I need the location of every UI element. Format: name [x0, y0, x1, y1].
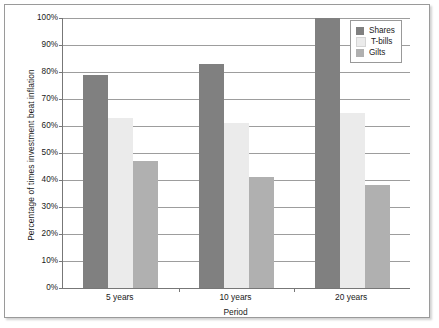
y-axis-tick-label: 100%: [30, 14, 58, 22]
y-axis-tick-labels: 100%90%80%70%60%50%40%30%20%10%0%: [26, 0, 58, 328]
y-axis-tick-label: 20%: [30, 230, 58, 238]
x-axis-tick-label: 5 years: [62, 292, 178, 302]
legend-label: Shares: [369, 26, 395, 35]
y-axis-tick-label: 30%: [30, 203, 58, 211]
bar-group: [63, 18, 179, 288]
legend-label: T-bills: [371, 37, 392, 46]
y-axis-tick-label: 70%: [30, 95, 58, 103]
bar-gilts[interactable]: [365, 185, 390, 288]
chart-legend: SharesT-billsGilts: [350, 20, 402, 63]
legend-item[interactable]: Gilts: [356, 47, 395, 58]
bar-t-bills[interactable]: [340, 113, 365, 289]
y-axis-tick-mark: [59, 288, 63, 289]
y-axis-tick-label: 10%: [30, 257, 58, 265]
y-axis-tick-label: 0%: [30, 284, 58, 292]
bar-group: [179, 18, 295, 288]
legend-item[interactable]: Shares: [356, 25, 395, 36]
x-axis-title: Period: [62, 307, 409, 317]
bar-gilts[interactable]: [249, 177, 274, 288]
y-axis-tick-label: 80%: [30, 68, 58, 76]
bar-t-bills[interactable]: [108, 118, 133, 288]
x-axis-tick-label: 10 years: [178, 292, 294, 302]
legend-item[interactable]: T-bills: [356, 36, 395, 47]
legend-swatch-icon: [356, 27, 364, 35]
y-axis-tick-label: 90%: [30, 41, 58, 49]
bar-shares[interactable]: [199, 64, 224, 288]
bar-shares[interactable]: [83, 75, 108, 288]
legend-swatch-icon: [356, 37, 366, 47]
legend-label: Gilts: [369, 48, 385, 57]
legend-swatch-icon: [356, 49, 364, 57]
y-axis-tick-label: 40%: [30, 176, 58, 184]
bar-gilts[interactable]: [133, 161, 158, 288]
y-axis-tick-label: 50%: [30, 149, 58, 157]
x-axis-tick-label: 20 years: [293, 292, 409, 302]
y-axis-tick-label: 60%: [30, 122, 58, 130]
x-axis-tick-labels: 5 years10 years20 years: [62, 292, 409, 302]
bar-t-bills[interactable]: [224, 123, 249, 288]
bar-chart: Percentage of times investment beat infl…: [0, 0, 439, 328]
bar-shares[interactable]: [315, 18, 340, 288]
